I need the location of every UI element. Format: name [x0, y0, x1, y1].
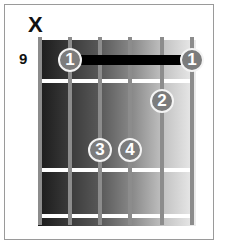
finger-dot-1-string-1: 1	[180, 48, 204, 72]
finger-dot-1-string-5: 1	[58, 48, 82, 72]
fret-line-3	[38, 214, 192, 218]
finger-dot-3: 3	[88, 138, 112, 162]
string-6	[38, 37, 42, 225]
muted-string-marker: X	[28, 14, 43, 36]
finger-dot-4: 4	[118, 138, 142, 162]
barre-bar	[70, 55, 192, 65]
string-3	[128, 37, 132, 225]
fret-line-2	[38, 168, 192, 172]
finger-dot-2: 2	[150, 89, 174, 113]
fret-line-1	[38, 79, 192, 83]
string-2	[160, 37, 164, 225]
start-fret-number: 9	[19, 51, 27, 66]
string-4	[98, 37, 102, 225]
